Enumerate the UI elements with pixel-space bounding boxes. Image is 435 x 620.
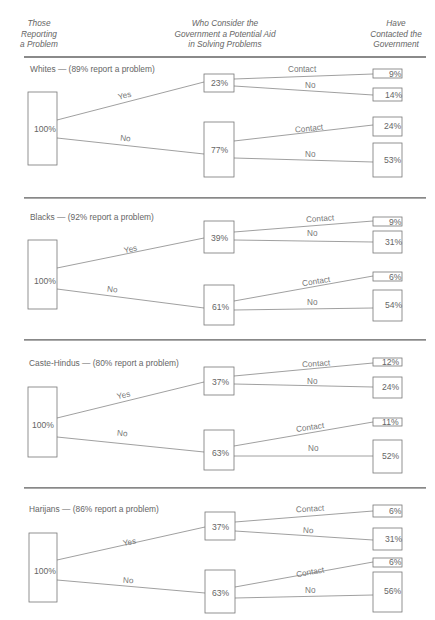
branch-line-no bbox=[57, 138, 204, 154]
branch-line-yes bbox=[57, 382, 204, 418]
no-value: 61% bbox=[212, 302, 230, 312]
yes-nocontact-label: No bbox=[307, 229, 318, 238]
yes-contact-value: 9% bbox=[389, 217, 402, 227]
yes-value: 37% bbox=[212, 377, 230, 387]
no-label: No bbox=[123, 576, 135, 586]
yes-nocontact-value: 31% bbox=[385, 237, 403, 247]
no-label: No bbox=[120, 134, 132, 144]
no-contact-value: 6% bbox=[389, 272, 402, 282]
yes-contact-value: 9% bbox=[389, 69, 402, 79]
yes-contact-label: Contact bbox=[288, 65, 317, 74]
no-value: 77% bbox=[211, 145, 229, 155]
yes-value: 39% bbox=[211, 233, 229, 243]
yes-nocontact-value: 24% bbox=[382, 382, 400, 392]
section-title: Caste-Hindus — (80% report a problem) bbox=[29, 358, 179, 368]
yes-contact-value: 12% bbox=[382, 357, 400, 367]
no-nocontact-value: 54% bbox=[385, 300, 403, 310]
branch-line-yes-contact bbox=[234, 221, 373, 232]
branch-line-no-nocontact bbox=[235, 595, 373, 598]
branch-line-no-nocontact bbox=[234, 308, 373, 310]
yes-contact-label: Contact bbox=[306, 213, 335, 224]
yes-label: Yes bbox=[123, 244, 138, 256]
yes-nocontact-value: 14% bbox=[385, 90, 403, 100]
no-label: No bbox=[117, 429, 129, 439]
no-value: 63% bbox=[212, 448, 230, 458]
branch-line-no bbox=[57, 437, 204, 452]
section-caste-hindus: Caste-Hindus — (80% report a problem) 10… bbox=[28, 357, 402, 473]
yes-label: Yes bbox=[122, 537, 137, 548]
branch-line-yes-nocontact bbox=[234, 384, 373, 387]
no-nocontact-label: No bbox=[305, 150, 316, 159]
no-nocontact-value: 52% bbox=[382, 451, 400, 461]
branch-line-no bbox=[57, 289, 204, 308]
no-contact-label: Contact bbox=[295, 565, 325, 579]
yes-nocontact-label: No bbox=[307, 377, 318, 386]
no-contact-label: Contact bbox=[296, 421, 326, 434]
section-title: Harijans — (86% report a problem) bbox=[29, 504, 159, 514]
yes-value: 37% bbox=[212, 522, 230, 532]
yes-value: 23% bbox=[211, 78, 229, 88]
no-contact-value: 24% bbox=[384, 121, 402, 131]
section-blacks: Blacks — (92% report a problem) 100% 39%… bbox=[28, 212, 403, 325]
no-nocontact-label: No bbox=[307, 298, 318, 307]
branch-line-yes bbox=[57, 82, 204, 120]
yes-contact-label: Contact bbox=[296, 504, 325, 515]
root-box bbox=[28, 240, 57, 309]
root-value: 100% bbox=[34, 276, 56, 286]
root-value: 100% bbox=[34, 124, 56, 134]
branch-line-yes-nocontact bbox=[234, 240, 373, 242]
no-label: No bbox=[107, 284, 119, 294]
no-nocontact-label: No bbox=[308, 444, 319, 453]
section-title: Whites — (89% report a problem) bbox=[30, 64, 155, 74]
root-value: 100% bbox=[32, 420, 54, 430]
branch-line-yes-nocontact bbox=[234, 86, 373, 95]
no-nocontact-value: 56% bbox=[384, 586, 402, 596]
section-whites: Whites — (89% report a problem) 100% 23%… bbox=[28, 64, 403, 177]
yes-label: Yes bbox=[116, 389, 131, 401]
no-contact-label: Contact bbox=[295, 123, 325, 135]
root-value: 100% bbox=[34, 566, 56, 576]
yes-label: Yes bbox=[117, 90, 132, 102]
section-harijans: Harijans — (86% report a problem) 100% 3… bbox=[29, 504, 403, 613]
branch-line-no-nocontact bbox=[234, 158, 373, 162]
no-contact-value: 11% bbox=[382, 417, 399, 427]
section-title: Blacks — (92% report a problem) bbox=[30, 212, 154, 222]
no-contact-value: 6% bbox=[389, 557, 402, 567]
yes-nocontact-label: No bbox=[305, 81, 316, 90]
no-nocontact-label: No bbox=[305, 586, 316, 595]
tree-diagram: Whites — (89% report a problem) 100% 23%… bbox=[0, 0, 435, 620]
yes-nocontact-label: No bbox=[303, 526, 315, 536]
yes-nocontact-value: 31% bbox=[385, 534, 403, 544]
no-value: 63% bbox=[212, 588, 230, 598]
yes-contact-value: 6% bbox=[389, 506, 402, 516]
branch-line-yes-contact bbox=[234, 74, 373, 79]
no-nocontact-value: 53% bbox=[384, 155, 402, 165]
